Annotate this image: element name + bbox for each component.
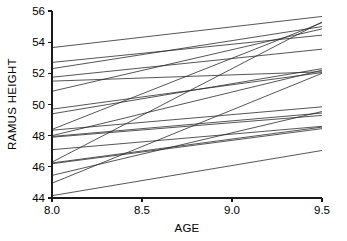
y-tick-label: 54 [32, 36, 45, 48]
y-tick-label: 52 [32, 67, 45, 79]
y-tick-label: 46 [32, 161, 45, 173]
x-tick-label: 9.0 [224, 204, 240, 216]
y-axis-title: RAMUS HEIGHT [6, 58, 18, 150]
chart-canvas: 44464850525456 8.08.59.09.5 AGE RAMUS HE… [0, 0, 347, 241]
x-axis-title: AGE [174, 222, 199, 234]
y-tick-label: 44 [32, 192, 45, 204]
y-tick-label: 48 [32, 130, 45, 142]
x-tick-label: 9.5 [314, 204, 330, 216]
x-tick-label: 8.5 [134, 204, 150, 216]
ramus-height-vs-age-chart: 44464850525456 8.08.59.09.5 AGE RAMUS HE… [0, 0, 347, 241]
y-tick-label: 50 [32, 99, 45, 111]
y-tick-label: 56 [32, 5, 45, 17]
x-tick-label: 8.0 [44, 204, 60, 216]
